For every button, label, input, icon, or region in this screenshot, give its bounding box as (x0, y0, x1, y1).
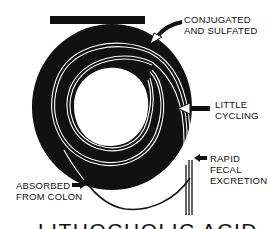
label-conjugated: CONJUGATED AND SULFATED (184, 14, 258, 36)
input-bar (50, 16, 145, 24)
label-line: EXCRETION (210, 175, 267, 186)
arrow-rapid-fecal (194, 154, 207, 162)
label-line: FECAL (210, 164, 267, 175)
label-line: CYCLING (215, 110, 259, 121)
label-line: LITTLE (215, 99, 259, 110)
label-little-cycling: LITTLE CYCLING (215, 99, 259, 121)
label-line: FROM COLON (16, 191, 82, 202)
label-line: CONJUGATED (184, 14, 258, 25)
label-line: ABSORBED (16, 180, 82, 191)
label-absorbed: ABSORBED FROM COLON (16, 180, 82, 202)
label-line: AND SULFATED (184, 25, 258, 36)
diagram-title: LITHOCHOLIC ACID (38, 219, 258, 229)
arrow-conjugated (150, 22, 182, 44)
label-line: RAPID (210, 153, 267, 164)
label-rapid-fecal: RAPID FECAL EXCRETION (210, 153, 267, 186)
